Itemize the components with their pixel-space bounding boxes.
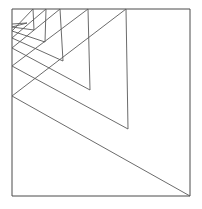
figure-background [0,0,202,209]
spiral-diagram [0,0,202,209]
figure-container [0,0,202,209]
